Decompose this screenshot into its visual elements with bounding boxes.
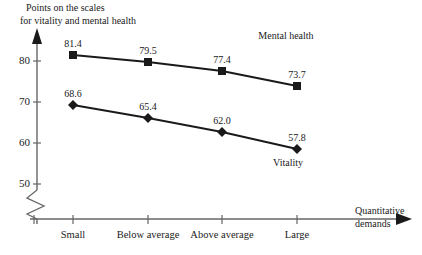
data-point-mental-health-large [293,82,301,90]
data-label-vitality-small: 68.6 [53,88,93,100]
data-label-mental-health-below-average: 79.5 [128,45,168,57]
data-label-mental-health-small: 81.4 [53,38,93,50]
series-line-mental-health [73,55,297,86]
x-axis-category-label-large: Large [257,229,337,241]
data-label-vitality-large: 57.8 [277,132,317,144]
chart-figure: Points on the scales for vitality and me… [0,0,422,255]
y-axis-tick-label-80: 80 [2,54,30,67]
y-axis-tick-label-50: 50 [2,177,30,190]
data-label-mental-health-above-average: 77.4 [202,54,242,66]
y-axis-tick-label-60: 60 [2,136,30,149]
data-point-vitality-below-average [143,113,153,123]
chart-title-line-2: for vitality and mental health [20,15,136,27]
data-point-vitality-large [292,144,302,154]
data-point-mental-health-below-average [144,58,152,66]
series-annotation-mental-health: Mental health [240,30,332,42]
data-label-mental-health-large: 73.7 [277,69,317,81]
data-label-vitality-above-average: 62.0 [202,115,242,127]
data-point-mental-health-small [69,51,77,59]
data-point-mental-health-above-average [218,67,226,75]
x-axis-caption-line-1: Quantitative [355,205,404,217]
data-point-vitality-above-average [217,127,227,137]
x-axis-caption-line-2: demands [355,218,391,230]
data-point-vitality-small [68,100,78,110]
series-annotation-vitality: Vitality [258,157,318,169]
y-axis-arrowhead [32,28,42,44]
chart-title-line-1: Points on the scales [26,2,105,14]
data-label-vitality-below-average: 65.4 [128,101,168,113]
series-line-vitality [73,105,297,149]
y-axis-tick-label-70: 70 [2,95,30,108]
y-axis-break-zigzag [27,190,44,219]
